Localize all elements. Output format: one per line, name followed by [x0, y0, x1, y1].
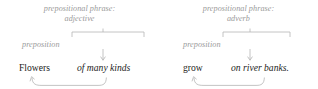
phrase-text-on-river-banks: on river banks. — [231, 62, 289, 74]
phrase-label-adverb-line1: prepositional phrase: — [203, 4, 274, 13]
phrase-label-adjective-line1: prepositional phrase: — [44, 4, 115, 13]
group-adjective-phrase: prepositional phrase: adjective preposit… — [0, 0, 159, 89]
preposition-label-adverb: preposition — [183, 40, 283, 50]
phrase-label-adverb: prepositional phrase: adverb — [159, 4, 318, 24]
group-adverb-phrase: prepositional phrase: adverb preposition… — [159, 0, 318, 89]
phrase-label-adjective: prepositional phrase: adjective — [0, 4, 159, 24]
grammar-diagram: prepositional phrase: adjective preposit… — [0, 0, 318, 89]
head-word-flowers: Flowers — [19, 62, 50, 74]
head-word-grow: grow — [183, 62, 203, 74]
preposition-label-adjective: preposition — [22, 40, 122, 50]
phrase-label-adjective-line2: adjective — [65, 14, 95, 23]
phrase-text-of-many-kinds: of many kinds — [77, 62, 130, 74]
phrase-label-adverb-line2: adverb — [227, 14, 250, 23]
